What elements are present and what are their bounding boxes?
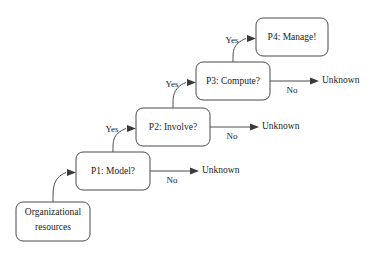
diagram-canvas: Yes Yes Yes No No No (0, 0, 375, 257)
edge-p3-no-unknown: No (270, 78, 319, 96)
terminal-unknown-2: Unknown (262, 121, 300, 131)
edge-label-p2-yes: Yes (165, 79, 179, 89)
node-org-resources[interactable]: Organizational resources (16, 202, 90, 241)
edge-p1-yes-p2: Yes (105, 124, 136, 152)
arrow-head-org-to-p1 (67, 169, 76, 176)
edge-label-p2-no: No (227, 131, 238, 141)
arrow-head-p2-yes-p3 (187, 79, 196, 86)
edge-label-p3-no: No (287, 85, 298, 95)
edge-label-p3-yes: Yes (225, 35, 239, 45)
edge-p1-no-unknown: No (150, 168, 199, 186)
node-p1-model[interactable]: P1: Model? (76, 152, 150, 190)
node-p4-manage[interactable]: P4: Manage! (256, 18, 328, 56)
arrow-head-p2-no-unknown (250, 124, 259, 131)
node-p2-involve-label: P2: Involve? (149, 122, 197, 132)
flowchart-svg: Yes Yes Yes No No No (0, 0, 375, 257)
node-p4-manage-label: P4: Manage! (268, 32, 317, 42)
edge-label-p1-yes: Yes (105, 124, 119, 134)
node-p2-involve[interactable]: P2: Involve? (136, 108, 210, 146)
edge-p2-no-unknown: No (210, 124, 259, 142)
edge-p3-yes-p4: Yes (225, 35, 256, 62)
edge-label-p1-no: No (167, 175, 178, 185)
node-p1-model-label: P1: Model? (91, 166, 135, 176)
terminal-unknown-1: Unknown (202, 165, 240, 175)
arrow-head-p1-yes-p2 (127, 125, 136, 132)
arrow-head-p3-yes-p4 (247, 35, 256, 42)
node-p3-compute-label: P3: Compute? (206, 76, 260, 86)
node-org-resources-label-line1: Organizational (25, 207, 82, 217)
arrow-head-p1-no-unknown (190, 168, 199, 175)
terminal-unknown-3: Unknown (322, 75, 360, 85)
edge-p2-yes-p3: Yes (165, 79, 196, 108)
edge-org-to-p1 (53, 169, 76, 202)
node-p3-compute[interactable]: P3: Compute? (196, 62, 270, 100)
node-org-resources-label-line2: resources (35, 222, 71, 232)
edge-org-to-p1-path (53, 173, 66, 203)
arrow-head-p3-no-unknown (310, 78, 319, 85)
